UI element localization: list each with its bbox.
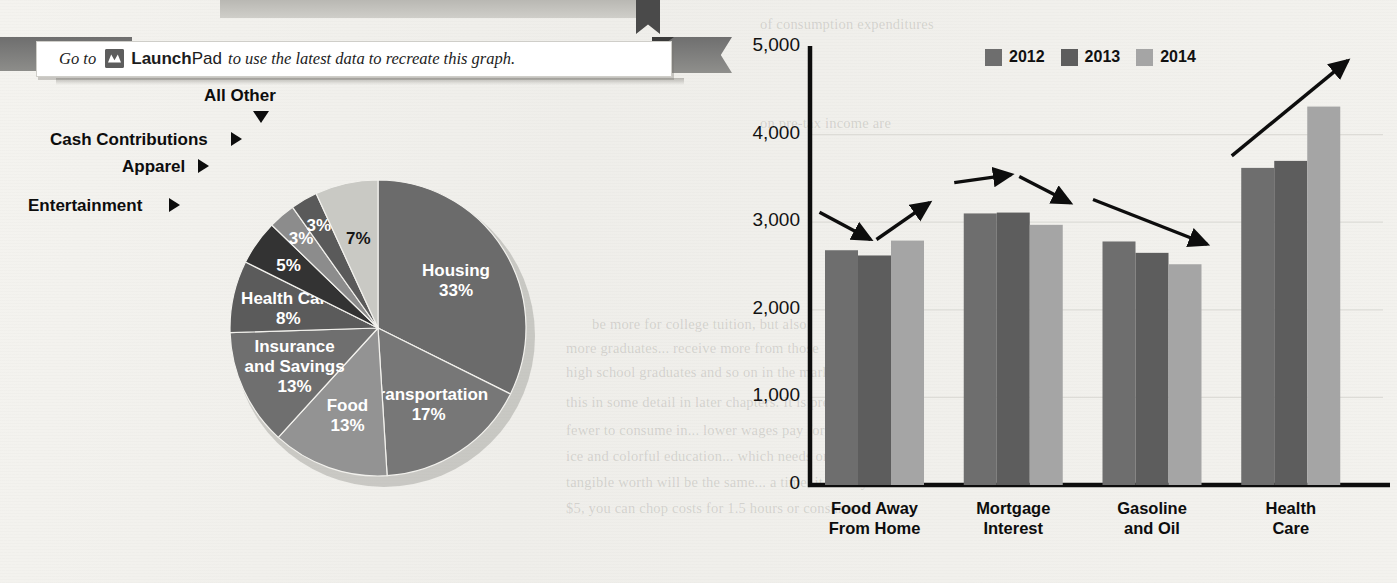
bar-chart: U.S. Dollars 01,0002,0003,0004,0005,000 … bbox=[700, 0, 1397, 583]
pie-slice-label-food: Food bbox=[327, 396, 369, 415]
bar-2014-gasoline-and-oil[interactable] bbox=[1169, 264, 1202, 485]
trend-arrow bbox=[820, 212, 871, 239]
callout-shadow bbox=[56, 78, 684, 85]
bar-2013-food-away-from-home[interactable] bbox=[858, 255, 891, 485]
launchpad-icon bbox=[105, 49, 124, 68]
bar-2014-health-care[interactable] bbox=[1307, 107, 1340, 485]
pie-callout-label-entertainment: Entertainment bbox=[28, 196, 142, 216]
bar-2013-gasoline-and-oil[interactable] bbox=[1136, 253, 1169, 485]
ribbon-top-bar bbox=[220, 0, 650, 18]
x-category-health-care: HealthCare bbox=[1229, 498, 1352, 538]
bar-2013-health-care[interactable] bbox=[1274, 161, 1307, 485]
x-category-gasoline-and-oil: Gasolineand Oil bbox=[1091, 498, 1214, 538]
pie-chart: Housing33%Transportation17%Food13%Insura… bbox=[0, 86, 700, 583]
launchpad-text: Go to LaunchPad to use the latest data t… bbox=[59, 49, 515, 69]
x-category-line: Mortgage bbox=[952, 498, 1075, 518]
pie-callout-caret-all-other bbox=[253, 111, 269, 123]
x-category-line: From Home bbox=[813, 518, 936, 538]
pie-slice-label-housing: Housing bbox=[422, 261, 490, 280]
pie-callout-caret-apparel bbox=[198, 159, 209, 173]
launchpad-brand: LaunchPad bbox=[131, 49, 222, 68]
bar-2012-food-away-from-home[interactable] bbox=[825, 250, 858, 485]
x-category-line: Gasoline bbox=[1091, 498, 1214, 518]
pie-slice-label-all-other: 7% bbox=[346, 229, 371, 248]
bar-2012-health-care[interactable] bbox=[1241, 168, 1274, 485]
pie-chart-svg: Housing33%Transportation17%Food13%Insura… bbox=[0, 86, 700, 583]
bar-chart-svg bbox=[700, 0, 1397, 583]
trend-arrow bbox=[877, 203, 930, 240]
pie-slice-label-insurance-and-savings: and Savings bbox=[245, 357, 345, 376]
pie-callout-caret-cash-contributions bbox=[231, 132, 242, 146]
pie-callout-caret-entertainment bbox=[169, 198, 180, 212]
pie-slice-label-food: 13% bbox=[330, 416, 364, 435]
bar-2012-gasoline-and-oil[interactable] bbox=[1103, 241, 1136, 485]
pie-callout-label-apparel: Apparel bbox=[122, 157, 185, 177]
bar-2013-mortgage-interest[interactable] bbox=[997, 213, 1030, 485]
callout-prefix: Go to bbox=[59, 49, 96, 68]
x-category-line: Care bbox=[1229, 518, 1352, 538]
pie-slice-label-housing: 33% bbox=[439, 281, 473, 300]
launchpad-callout[interactable]: Go to LaunchPad to use the latest data t… bbox=[36, 41, 672, 77]
x-category-food-away-from-home: Food AwayFrom Home bbox=[813, 498, 936, 538]
brand-light: Pad bbox=[192, 49, 222, 68]
ribbon-top-tail bbox=[636, 0, 660, 34]
x-category-line: and Oil bbox=[1091, 518, 1214, 538]
callout-suffix: to use the latest data to recreate this … bbox=[228, 49, 515, 68]
x-category-line: Health bbox=[1229, 498, 1352, 518]
brand-bold: Launch bbox=[131, 49, 191, 68]
pie-slice-label-insurance-and-savings: Insurance bbox=[254, 337, 334, 356]
x-category-line: Interest bbox=[952, 518, 1075, 538]
pie-slice-label-insurance-and-savings: 13% bbox=[278, 377, 312, 396]
bar-2014-mortgage-interest[interactable] bbox=[1030, 225, 1063, 485]
pie-slice-label-entertainment: 5% bbox=[276, 256, 301, 275]
x-category-line: Food Away bbox=[813, 498, 936, 518]
trend-arrow bbox=[954, 175, 1011, 183]
pie-callout-label-all-other: All Other bbox=[204, 86, 276, 106]
bar-2012-mortgage-interest[interactable] bbox=[964, 213, 997, 485]
bar-2014-food-away-from-home[interactable] bbox=[891, 241, 924, 485]
pie-slice-label-health-care: 8% bbox=[276, 309, 301, 328]
x-category-mortgage-interest: MortgageInterest bbox=[952, 498, 1075, 538]
pie-slice-label-transportation: 17% bbox=[412, 405, 446, 424]
pie-slice-label-transportation: Transportation bbox=[369, 385, 488, 404]
trend-arrow bbox=[1019, 177, 1070, 203]
pie-callout-label-cash-contributions: Cash Contributions bbox=[50, 130, 208, 150]
